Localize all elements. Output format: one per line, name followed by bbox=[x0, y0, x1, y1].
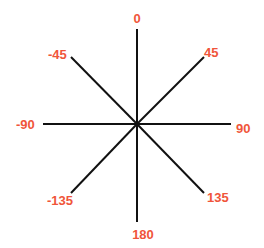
ray-135 bbox=[137, 124, 204, 193]
label-180: 180 bbox=[132, 227, 154, 242]
compass-diagram: 0 45 90 135 180 -135 -90 -45 bbox=[0, 0, 264, 248]
angle-rays: 0 45 90 135 180 -135 -90 -45 bbox=[0, 0, 264, 248]
label-90: 90 bbox=[236, 121, 250, 136]
ray-minus-135 bbox=[71, 124, 137, 193]
label-45: 45 bbox=[204, 45, 218, 60]
label-minus-45: -45 bbox=[48, 47, 67, 62]
ray-45 bbox=[137, 57, 204, 124]
label-0: 0 bbox=[133, 11, 140, 26]
label-minus-135: -135 bbox=[47, 193, 73, 208]
label-minus-90: -90 bbox=[16, 117, 35, 132]
label-135: 135 bbox=[207, 190, 229, 205]
ray-minus-45 bbox=[71, 57, 137, 124]
